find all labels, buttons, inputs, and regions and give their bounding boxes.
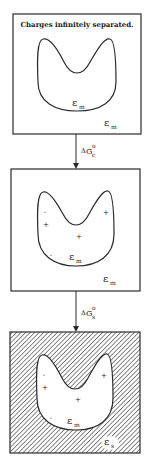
- svg-text:ε: ε: [103, 273, 108, 284]
- svg-text:ε: ε: [104, 117, 109, 128]
- state-box-3: - + + + - ε m ε s: [10, 332, 140, 453]
- svg-text:ε: ε: [67, 415, 72, 426]
- transition-arrow-2: Δ G s o: [73, 291, 96, 332]
- transition-arrow-1: Δ G c o: [73, 134, 96, 169]
- svg-text:s: s: [92, 313, 95, 320]
- arrowhead-icon: [73, 163, 79, 169]
- svg-text:m: m: [76, 257, 82, 264]
- state-box-2: - + + + - ε m ε m: [11, 169, 140, 291]
- positive-charge: +: [42, 384, 48, 392]
- svg-text:s: s: [111, 442, 114, 449]
- positive-charge: +: [76, 233, 82, 241]
- free-energy-label-coulomb: Δ G c o: [81, 142, 96, 158]
- positive-charge: +: [75, 396, 81, 404]
- svg-text:m: m: [111, 123, 117, 130]
- svg-text:ε: ε: [69, 251, 74, 262]
- positive-charge: +: [43, 221, 49, 229]
- svg-text:m: m: [74, 421, 80, 428]
- positive-charge: +: [103, 209, 109, 217]
- box-caption: Charges infinitely separated.: [20, 20, 133, 29]
- positive-charge: +: [101, 372, 107, 380]
- diagram-canvas: Charges infinitely separated. ε m ε m Δ …: [0, 0, 154, 468]
- free-energy-label-solvation: Δ G s o: [81, 304, 96, 320]
- arrowhead-icon: [73, 326, 79, 332]
- state-box-1: Charges infinitely separated. ε m ε m: [13, 14, 141, 134]
- svg-text:o: o: [92, 304, 96, 311]
- svg-text:m: m: [110, 279, 116, 286]
- svg-text:m: m: [79, 103, 85, 110]
- svg-text:ε: ε: [72, 97, 77, 108]
- svg-text:o: o: [92, 142, 96, 149]
- svg-text:ε: ε: [104, 436, 109, 447]
- svg-text:c: c: [92, 151, 96, 158]
